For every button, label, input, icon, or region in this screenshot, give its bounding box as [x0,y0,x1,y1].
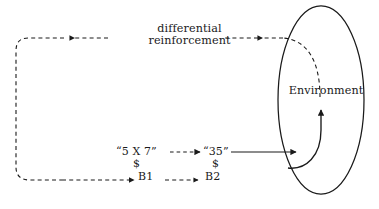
left-return-rail [16,38,64,180]
environment-label: Environment [284,85,368,97]
diagram-canvas: differential reinforcement Environment “… [0,0,379,209]
environment-internal-curve-arrow [288,110,321,168]
behavior-1-label: B1 [138,171,153,183]
reinforcer-1-label: $ [133,158,140,170]
differential-reinforcement-label: differential reinforcement [0,23,379,47]
behavior-2-label: B2 [205,171,220,183]
differential-reinforcement-line1: differential [157,22,221,35]
differential-reinforcement-line2: reinforcement [0,35,379,47]
reinforcer-2-label: $ [212,158,219,170]
